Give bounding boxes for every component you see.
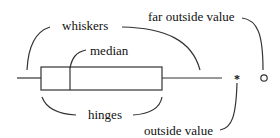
hinges-right-leader: [133, 97, 162, 115]
box-hinges: [41, 67, 162, 90]
hinges-label: hinges: [88, 108, 122, 121]
far-outside-value-label: far outside value: [148, 10, 235, 23]
far-outside-value-marker: [261, 75, 267, 81]
median-label: median: [90, 44, 128, 57]
boxplot-diagram: [0, 0, 280, 138]
outside-value-leader: [220, 83, 237, 130]
outside-value-marker: *: [234, 73, 240, 85]
whiskers-label: whiskers: [62, 19, 108, 32]
median-leader: [70, 50, 86, 68]
far-outside-value-leader: [242, 18, 263, 70]
whiskers-left-leader: [27, 27, 50, 70]
outside-value-label: outside value: [144, 124, 213, 137]
hinges-left-leader: [42, 97, 76, 115]
whiskers-right-leader: [122, 27, 200, 70]
